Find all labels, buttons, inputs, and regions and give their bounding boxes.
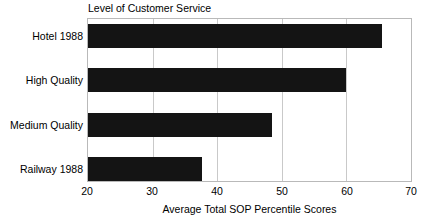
bar-chart-figure: Level of Customer Service Hotel 1988 Hig… — [0, 0, 425, 224]
x-tick-40: 40 — [202, 185, 232, 197]
y-axis-label-medium-quality: Medium Quality — [0, 119, 83, 131]
bar-hotel-1988 — [88, 24, 382, 48]
plot-area — [87, 18, 412, 182]
x-axis-title: Average Total SOP Percentile Scores — [87, 203, 412, 215]
y-axis-label-high-quality: High Quality — [0, 74, 83, 86]
bar-medium-quality — [88, 113, 272, 137]
x-tick-50: 50 — [267, 185, 297, 197]
y-axis-label-railway-1988: Railway 1988 — [0, 163, 83, 175]
chart-title: Level of Customer Service — [88, 2, 211, 14]
x-tick-20: 20 — [72, 185, 102, 197]
y-axis-label-hotel-1988: Hotel 1988 — [0, 30, 83, 42]
x-tick-70: 70 — [396, 185, 425, 197]
bar-railway-1988 — [88, 157, 202, 181]
x-tick-60: 60 — [332, 185, 362, 197]
bar-high-quality — [88, 68, 346, 92]
x-tick-30: 30 — [137, 185, 167, 197]
